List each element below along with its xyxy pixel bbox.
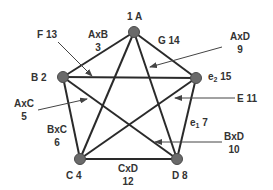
annotation-axd-value: 9: [237, 45, 243, 55]
annotation-bxc-value: 6: [54, 138, 60, 148]
annotation-axc-name: AxC: [14, 99, 34, 109]
annotation-cxd-name: CxD: [118, 164, 138, 174]
node-c: [75, 154, 86, 165]
annotation-axb-name: AxB: [88, 30, 108, 40]
annotation-cxd-value: 12: [122, 177, 133, 187]
annotation-bxd-name: BxD: [224, 132, 244, 142]
node-label-c: C 4: [66, 171, 82, 181]
annotation-e1: e1 7: [190, 118, 208, 131]
annotation-g: G 14: [158, 36, 180, 46]
node-label-d: D 8: [172, 171, 188, 181]
edge-b-e2: [63, 77, 196, 78]
node-d: [172, 154, 183, 165]
node-label-e2-num: 15: [217, 71, 231, 82]
annotation-bxc-name: BxC: [47, 125, 67, 135]
node-label-a: 1 A: [127, 12, 142, 22]
graph-edges: [63, 32, 196, 159]
node-a: [129, 27, 140, 38]
node-b: [58, 72, 69, 83]
annotation-bxd-value: 10: [228, 145, 239, 155]
node-e2: [191, 73, 202, 84]
node-label-e2: e2 15: [208, 72, 231, 85]
annotation-axb-value: 3: [95, 43, 101, 53]
arrow-axd: [150, 47, 222, 67]
edge-b-d: [63, 77, 177, 159]
arrow-f: [58, 42, 92, 76]
node-label-b: B 2: [31, 73, 47, 83]
annotation-axd-name: AxD: [230, 32, 250, 42]
annotation-axc-value: 5: [21, 112, 27, 122]
annotation-e1-num: 7: [199, 117, 207, 128]
arrow-axc: [38, 99, 87, 110]
annotation-e: E 11: [237, 94, 257, 104]
edge-b-c: [63, 77, 80, 159]
annotation-f: F 13: [37, 30, 57, 40]
